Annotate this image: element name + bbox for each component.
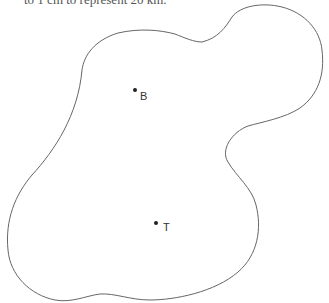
point-b-marker bbox=[133, 88, 137, 92]
point-b-label: B bbox=[140, 90, 147, 102]
island-outline-map bbox=[0, 0, 329, 303]
point-t-marker bbox=[154, 221, 158, 225]
point-t-label: T bbox=[163, 221, 170, 233]
island-outline bbox=[7, 5, 322, 301]
